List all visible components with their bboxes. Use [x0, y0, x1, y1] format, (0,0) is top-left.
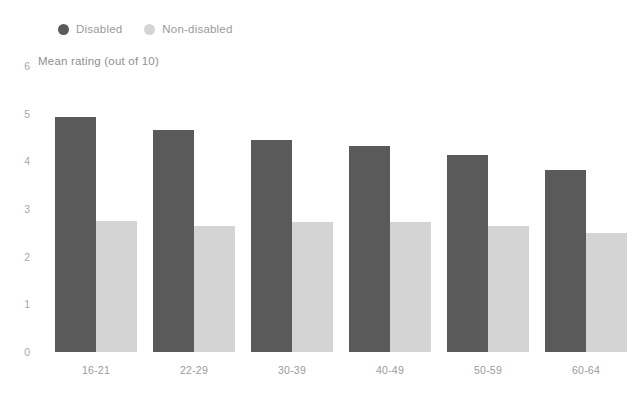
x-axis-tick-label: 50-59: [474, 364, 502, 376]
bar-non-disabled-22-29: [194, 226, 235, 352]
bar-disabled-60-64: [545, 170, 586, 352]
bar-disabled-50-59: [447, 155, 488, 352]
plot-area: 0123456 16-2122-2930-3940-4950-5960-64: [0, 0, 643, 397]
bar-non-disabled-30-39: [292, 222, 333, 352]
bar-disabled-40-49: [349, 146, 390, 352]
bar-non-disabled-40-49: [390, 222, 431, 352]
bar-non-disabled-50-59: [488, 226, 529, 352]
x-axis-tick-label: 22-29: [180, 364, 208, 376]
bar-non-disabled-60-64: [586, 233, 627, 352]
x-axis-tick-label: 40-49: [376, 364, 404, 376]
bar-disabled-16-21: [55, 117, 96, 352]
x-axis-tick-label: 16-21: [82, 364, 110, 376]
bar-non-disabled-16-21: [96, 221, 137, 352]
bars-layer: [0, 0, 643, 397]
bar-chart: Disabled Non-disabled Mean rating (out o…: [0, 0, 643, 397]
bar-disabled-22-29: [153, 130, 194, 352]
bar-disabled-30-39: [251, 140, 292, 352]
x-axis-tick-label: 30-39: [278, 364, 306, 376]
x-axis-tick-label: 60-64: [572, 364, 600, 376]
